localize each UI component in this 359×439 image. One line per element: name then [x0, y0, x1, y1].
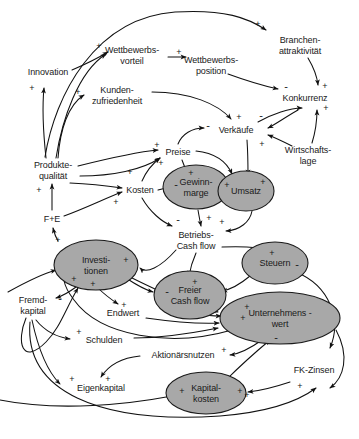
polarity-sign-plus: + — [36, 186, 41, 195]
node-label-fkzinsen: FK-Zinsen — [294, 365, 335, 376]
polarity-sign-minus: - — [58, 294, 62, 303]
node-label-branchenattraktivitaet: Branchen- attraktivität — [279, 35, 321, 56]
edge-kosten-preise — [142, 158, 160, 181]
polarity-sign-minus: - — [165, 287, 169, 296]
polarity-sign-plus: + — [255, 20, 260, 29]
node-label-investitionen: Investi- tionen — [82, 255, 110, 276]
edge-produktequalitaet-kundenzufriedenheit — [58, 95, 84, 158]
polarity-sign-plus: + — [221, 346, 226, 355]
polarity-sign-plus: + — [237, 387, 242, 396]
polarity-sign-plus: + — [259, 140, 264, 149]
polarity-sign-plus: + — [260, 178, 265, 187]
node-label-gewinnmarge: Gewinn- marge — [180, 177, 213, 198]
polarity-sign-plus: + — [188, 169, 193, 178]
edge-produktequalitaet-innovation — [43, 88, 46, 158]
polarity-sign-plus: + — [105, 375, 110, 384]
edge-preise-verkaeufe — [178, 128, 204, 144]
edge-gewinnmarge-betriebscashflow — [198, 210, 201, 226]
polarity-sign-plus: + — [96, 42, 101, 51]
node-label-fremdkapital: Fremd- kapital — [19, 295, 47, 316]
edge-innovation-wettbewerbsvorteil — [72, 52, 108, 70]
node-label-produktequalitaet: Produkte- qualität — [34, 160, 72, 181]
edge-steuern-freiercashflow — [222, 276, 250, 291]
polarity-sign-plus: + — [224, 181, 229, 190]
edge-wirtschaftslage-konkurrenz — [312, 110, 317, 143]
node-label-kapitalkosten: Kapital- kosten — [191, 383, 221, 404]
polarity-sign-plus: + — [322, 82, 327, 91]
polarity-sign-minus: - — [295, 260, 299, 269]
edge-branchenattraktivitaet-konkurrenz — [308, 58, 318, 85]
node-label-unternehmenswert: Unternehmens - wert — [248, 308, 311, 329]
edge-produktequalitaet-preise-2 — [80, 158, 160, 176]
polarity-sign-minus: - — [274, 333, 278, 342]
polarity-sign-plus: + — [71, 275, 76, 284]
node-label-betriebscashflow: Betriebs- Cash flow — [177, 230, 216, 251]
edge-kosten-betriebscashflow — [142, 198, 172, 226]
polarity-sign-plus: + — [127, 168, 132, 177]
edge-left-investitionen-inflow — [8, 270, 56, 292]
edge-produktequalitaet-preise — [78, 150, 158, 166]
edge-kundenzufriedenheit-verkaeufe — [152, 92, 231, 119]
node-label-konkurrenz: Konkurrenz — [282, 93, 327, 104]
node-label-kosten: Kosten — [126, 185, 153, 196]
edge-verkaeufe-konkurrenz — [258, 108, 302, 122]
node-label-schulden: Schulden — [86, 335, 123, 346]
polarity-sign-plus: + — [219, 218, 224, 227]
edge-umsatz-betriebscashflow — [226, 211, 252, 231]
polarity-sign-plus: + — [90, 280, 95, 289]
polarity-sign-plus: + — [69, 375, 74, 384]
causal-loop-diagram: InnovationWettbewerbs- vorteilWettbewerb… — [0, 0, 359, 439]
node-label-wettbewerbsvorteil: Wettbewerbs- vorteil — [105, 45, 159, 66]
node-label-eigenkapital: Eigenkapital — [77, 383, 125, 394]
polarity-sign-plus: + — [236, 113, 241, 122]
node-label-aktionaersnutzen: Aktionärsnutzen — [151, 350, 214, 361]
node-label-wirtschaftslage: Wirtschafts- lage — [285, 145, 331, 166]
polarity-sign-plus: + — [76, 328, 81, 337]
edge-produktequalitaet-kosten — [70, 183, 122, 188]
edge-fkzinsen-kapitalkosten — [248, 382, 290, 392]
edge-fremdkapital-schulden — [36, 320, 70, 339]
polarity-sign-plus: + — [297, 382, 302, 391]
node-label-umsatz: Umsatz — [231, 186, 261, 197]
polarity-sign-plus: + — [244, 303, 249, 312]
node-label-innovation: Innovation — [28, 67, 69, 78]
polarity-sign-minus: - — [174, 180, 178, 189]
polarity-sign-minus: - — [284, 82, 288, 91]
polarity-sign-plus: + — [154, 141, 159, 150]
polarity-sign-plus: + — [323, 104, 328, 113]
polarity-sign-plus: + — [123, 256, 128, 265]
edge-wettbewerbsposition-konkurrenz — [228, 74, 278, 89]
polarity-sign-plus: + — [29, 84, 34, 93]
polarity-sign-plus: + — [240, 314, 245, 323]
edge-verkaeufe-umsatz — [247, 140, 248, 175]
polarity-sign-plus: + — [192, 278, 197, 287]
polarity-sign-plus: + — [176, 48, 181, 57]
edge-kapitalkosten-unternehmenswert — [226, 340, 270, 380]
edge-unternehmenswert-fkzinsen — [330, 330, 344, 388]
edge-betriebscashflow-investitionen — [140, 250, 176, 270]
edge-investitionen-endwert — [98, 288, 118, 304]
polarity-sign-plus: + — [113, 198, 118, 207]
polarity-sign-plus: + — [244, 391, 249, 400]
polarity-sign-plus: + — [55, 236, 60, 245]
polarity-sign-plus: + — [75, 88, 80, 97]
node-label-steuern: Steuern — [260, 258, 291, 269]
node-label-freiercashflow: Freier Cash flow — [171, 285, 210, 306]
edge-konkurrenz-verkaeufe — [268, 110, 298, 128]
polarity-sign-plus: + — [269, 249, 274, 258]
node-label-wettbewerbsposition: Wettbewerbs- position — [184, 55, 238, 76]
polarity-sign-plus: + — [121, 301, 126, 310]
node-label-verkaeufe: Verkäufe — [219, 125, 254, 136]
polarity-sign-plus: + — [179, 387, 184, 396]
node-label-fue: F+E — [44, 214, 60, 225]
polarity-sign-plus: + — [158, 159, 163, 168]
node-label-kundenzufriedenheit: Kunden- zufriedenheit — [92, 85, 142, 106]
polarity-sign-minus: - — [176, 215, 180, 224]
polarity-sign-plus: + — [206, 214, 211, 223]
polarity-sign-minus: - — [259, 111, 263, 120]
node-label-preise: Preise — [166, 147, 191, 158]
edge-eigenkapital-kapitalkosten — [0, 396, 172, 406]
polarity-sign-minus: - — [206, 121, 210, 130]
